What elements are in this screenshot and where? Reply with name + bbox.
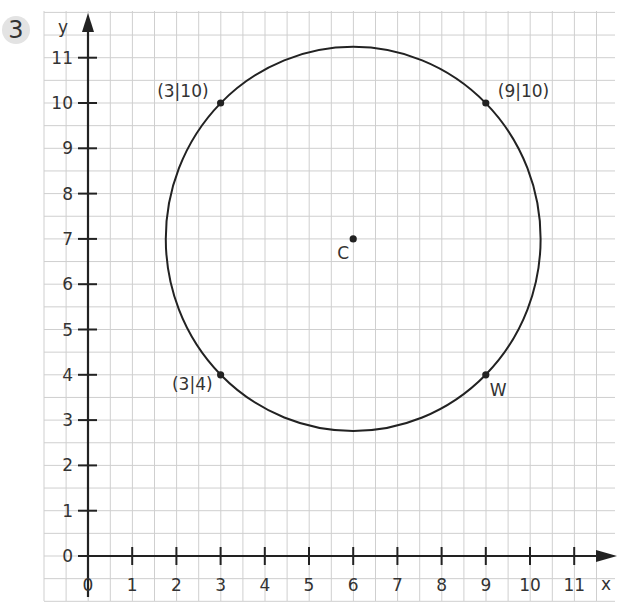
y-tick-label: 9	[62, 138, 73, 158]
point-p3-dot	[217, 371, 224, 378]
x-tick-label: 1	[127, 575, 138, 595]
y-tick-label: 4	[62, 365, 73, 385]
x-tick-label: 2	[171, 575, 182, 595]
y-tick-label: 2	[62, 455, 73, 475]
point-p2-dot	[482, 99, 489, 106]
point-p3-label: (3|4)	[172, 374, 213, 394]
x-tick-label: 9	[480, 575, 491, 595]
y-axis-label: y	[58, 17, 68, 37]
x-tick-label: 0	[83, 575, 94, 595]
y-tick-label: 11	[51, 48, 73, 68]
y-tick-label: 8	[62, 184, 73, 204]
point-w-dot	[482, 371, 489, 378]
coordinate-plane: yx 0123456789101101234567891011 (3|10)(9…	[0, 0, 622, 611]
point-p2-label: (9|10)	[498, 81, 549, 101]
point-c-dot	[350, 235, 357, 242]
y-tick-label: 3	[62, 410, 73, 430]
x-tick-label: 10	[519, 575, 541, 595]
point-c-label: C	[337, 243, 349, 263]
x-tick-label: 4	[259, 575, 270, 595]
x-tick-label: 8	[436, 575, 447, 595]
y-axis-arrow-icon	[82, 13, 94, 32]
x-tick-label: 6	[348, 575, 359, 595]
y-tick-label: 10	[51, 93, 73, 113]
x-tick-label: 5	[304, 575, 315, 595]
point-p1-dot	[217, 99, 224, 106]
y-tick-label: 7	[62, 229, 73, 249]
x-tick-label: 11	[563, 575, 585, 595]
x-axis-label: x	[601, 574, 611, 594]
x-tick-label: 7	[392, 575, 403, 595]
y-tick-label: 0	[62, 546, 73, 566]
y-tick-label: 1	[62, 501, 73, 521]
y-tick-label: 5	[62, 320, 73, 340]
x-tick-label: 3	[215, 575, 226, 595]
x-axis-arrow-icon	[596, 550, 617, 562]
axis-ticks: 0123456789101101234567891011	[51, 48, 585, 595]
point-w-label: W	[490, 380, 507, 400]
point-p1-label: (3|10)	[157, 81, 208, 101]
y-tick-label: 6	[62, 274, 73, 294]
